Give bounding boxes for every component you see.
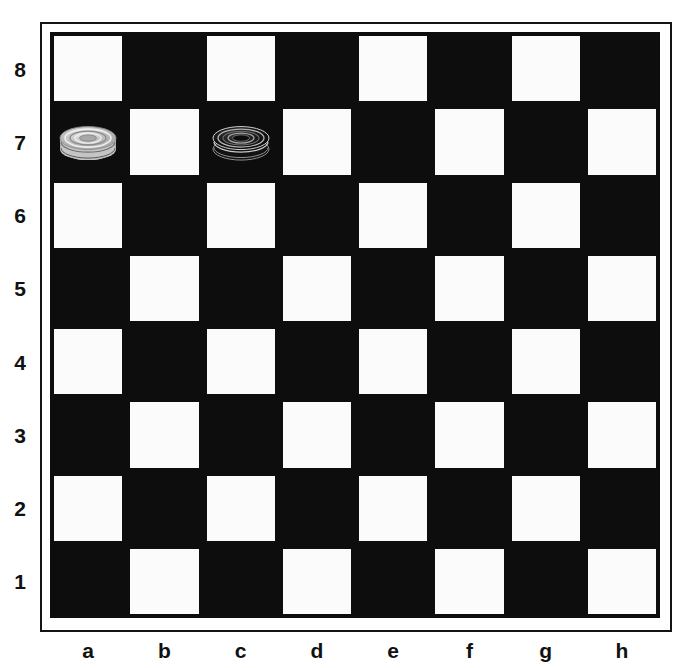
board-square-e1[interactable] bbox=[355, 545, 431, 618]
board-square-e4[interactable] bbox=[355, 325, 431, 398]
board-square-a7[interactable] bbox=[50, 105, 126, 178]
board-square-h1[interactable] bbox=[584, 545, 660, 618]
board-square-e3[interactable] bbox=[355, 398, 431, 471]
board-square-d8[interactable] bbox=[279, 32, 355, 105]
file-label-h: h bbox=[602, 640, 642, 661]
board-square-a8[interactable] bbox=[50, 32, 126, 105]
board-square-a4[interactable] bbox=[50, 325, 126, 398]
board-square-b7[interactable] bbox=[126, 105, 202, 178]
board-square-b2[interactable] bbox=[126, 472, 202, 545]
board-square-h5[interactable] bbox=[584, 252, 660, 325]
file-label-c: c bbox=[221, 640, 261, 661]
board-square-g1[interactable] bbox=[508, 545, 584, 618]
board-square-g5[interactable] bbox=[508, 252, 584, 325]
board-square-f4[interactable] bbox=[431, 325, 507, 398]
board-square-f5[interactable] bbox=[431, 252, 507, 325]
board-square-c8[interactable] bbox=[203, 32, 279, 105]
board-square-h7[interactable] bbox=[584, 105, 660, 178]
board-square-f7[interactable] bbox=[431, 105, 507, 178]
file-label-b: b bbox=[144, 640, 184, 661]
board-square-c3[interactable] bbox=[203, 398, 279, 471]
board-square-e7[interactable] bbox=[355, 105, 431, 178]
board-square-d6[interactable] bbox=[279, 179, 355, 252]
board-square-g4[interactable] bbox=[508, 325, 584, 398]
board-square-a2[interactable] bbox=[50, 472, 126, 545]
board-square-h6[interactable] bbox=[584, 179, 660, 252]
rank-label-8: 8 bbox=[6, 58, 34, 79]
rank-label-3: 3 bbox=[6, 424, 34, 445]
board-square-b4[interactable] bbox=[126, 325, 202, 398]
rank-label-4: 4 bbox=[6, 351, 34, 372]
board-square-c4[interactable] bbox=[203, 325, 279, 398]
board-square-h4[interactable] bbox=[584, 325, 660, 398]
rank-label-7: 7 bbox=[6, 131, 34, 152]
board-square-d7[interactable] bbox=[279, 105, 355, 178]
board-square-a5[interactable] bbox=[50, 252, 126, 325]
board-square-d4[interactable] bbox=[279, 325, 355, 398]
board-square-d3[interactable] bbox=[279, 398, 355, 471]
board-square-e5[interactable] bbox=[355, 252, 431, 325]
board-square-d2[interactable] bbox=[279, 472, 355, 545]
board-square-b6[interactable] bbox=[126, 179, 202, 252]
board-square-g6[interactable] bbox=[508, 179, 584, 252]
board-square-g7[interactable] bbox=[508, 105, 584, 178]
file-label-a: a bbox=[68, 640, 108, 661]
file-label-e: e bbox=[373, 640, 413, 661]
board-square-f2[interactable] bbox=[431, 472, 507, 545]
board-square-f6[interactable] bbox=[431, 179, 507, 252]
board-square-c1[interactable] bbox=[203, 545, 279, 618]
file-label-d: d bbox=[297, 640, 337, 661]
board-square-e2[interactable] bbox=[355, 472, 431, 545]
board-square-c5[interactable] bbox=[203, 252, 279, 325]
board-square-e8[interactable] bbox=[355, 32, 431, 105]
board-square-a1[interactable] bbox=[50, 545, 126, 618]
rank-label-6: 6 bbox=[6, 205, 34, 226]
dark-checker-c7[interactable] bbox=[211, 118, 271, 164]
board-square-c6[interactable] bbox=[203, 179, 279, 252]
file-label-f: f bbox=[449, 640, 489, 661]
rank-label-2: 2 bbox=[6, 498, 34, 519]
board-square-g2[interactable] bbox=[508, 472, 584, 545]
board-square-b3[interactable] bbox=[126, 398, 202, 471]
board-square-b1[interactable] bbox=[126, 545, 202, 618]
board-square-h2[interactable] bbox=[584, 472, 660, 545]
board-square-c2[interactable] bbox=[203, 472, 279, 545]
light-checker-a7[interactable] bbox=[58, 118, 118, 164]
board-square-a3[interactable] bbox=[50, 398, 126, 471]
rank-label-1: 1 bbox=[6, 571, 34, 592]
board-square-h3[interactable] bbox=[584, 398, 660, 471]
board-square-g3[interactable] bbox=[508, 398, 584, 471]
board-square-d1[interactable] bbox=[279, 545, 355, 618]
file-label-g: g bbox=[526, 640, 566, 661]
board-square-g8[interactable] bbox=[508, 32, 584, 105]
board-square-d5[interactable] bbox=[279, 252, 355, 325]
board-square-h8[interactable] bbox=[584, 32, 660, 105]
board-square-f3[interactable] bbox=[431, 398, 507, 471]
board-square-b5[interactable] bbox=[126, 252, 202, 325]
board-square-f1[interactable] bbox=[431, 545, 507, 618]
board-square-f8[interactable] bbox=[431, 32, 507, 105]
board-square-e6[interactable] bbox=[355, 179, 431, 252]
board-square-b8[interactable] bbox=[126, 32, 202, 105]
checkers-board[interactable] bbox=[50, 32, 660, 618]
board-square-c7[interactable] bbox=[203, 105, 279, 178]
board-square-a6[interactable] bbox=[50, 179, 126, 252]
rank-label-5: 5 bbox=[6, 278, 34, 299]
